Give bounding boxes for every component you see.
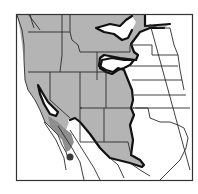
isolated-population-point — [67, 154, 74, 161]
range-map — [0, 0, 198, 194]
